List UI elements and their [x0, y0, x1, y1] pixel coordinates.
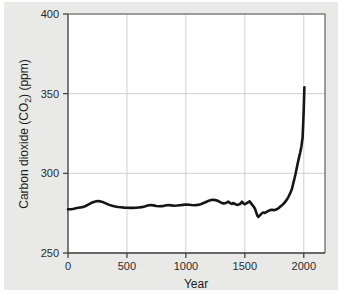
x-tick-label: 0: [65, 260, 71, 272]
x-tick-label: 1500: [233, 260, 257, 272]
x-tick-label: 2000: [292, 260, 316, 272]
y-tick-label: 300: [41, 167, 59, 179]
svg-text:Carbon dioxide (CO2) (ppm): Carbon dioxide (CO2) (ppm): [17, 59, 33, 208]
y-axis-title-main: Carbon dioxide (CO: [17, 103, 31, 209]
x-tick-label: 500: [118, 260, 136, 272]
y-axis-title: Carbon dioxide (CO2) (ppm): [17, 59, 33, 208]
co2-line-chart: 250300350400 0500100015002000 Year Carbo…: [0, 0, 346, 306]
y-tick-label: 400: [41, 8, 59, 20]
chart-figure: 250300350400 0500100015002000 Year Carbo…: [0, 0, 346, 306]
x-tick-label: 1000: [174, 260, 198, 272]
y-tick-label: 350: [41, 88, 59, 100]
x-axis-ticks: [68, 253, 304, 258]
plot-area-background: [68, 14, 325, 253]
x-axis-tick-labels: 0500100015002000: [65, 260, 316, 272]
y-axis-ticks: [63, 14, 68, 253]
y-axis-tick-labels: 250300350400: [41, 8, 59, 259]
x-axis-title: Year: [184, 277, 208, 291]
y-tick-label: 250: [41, 247, 59, 259]
y-axis-title-tail: ) (ppm): [17, 59, 31, 98]
